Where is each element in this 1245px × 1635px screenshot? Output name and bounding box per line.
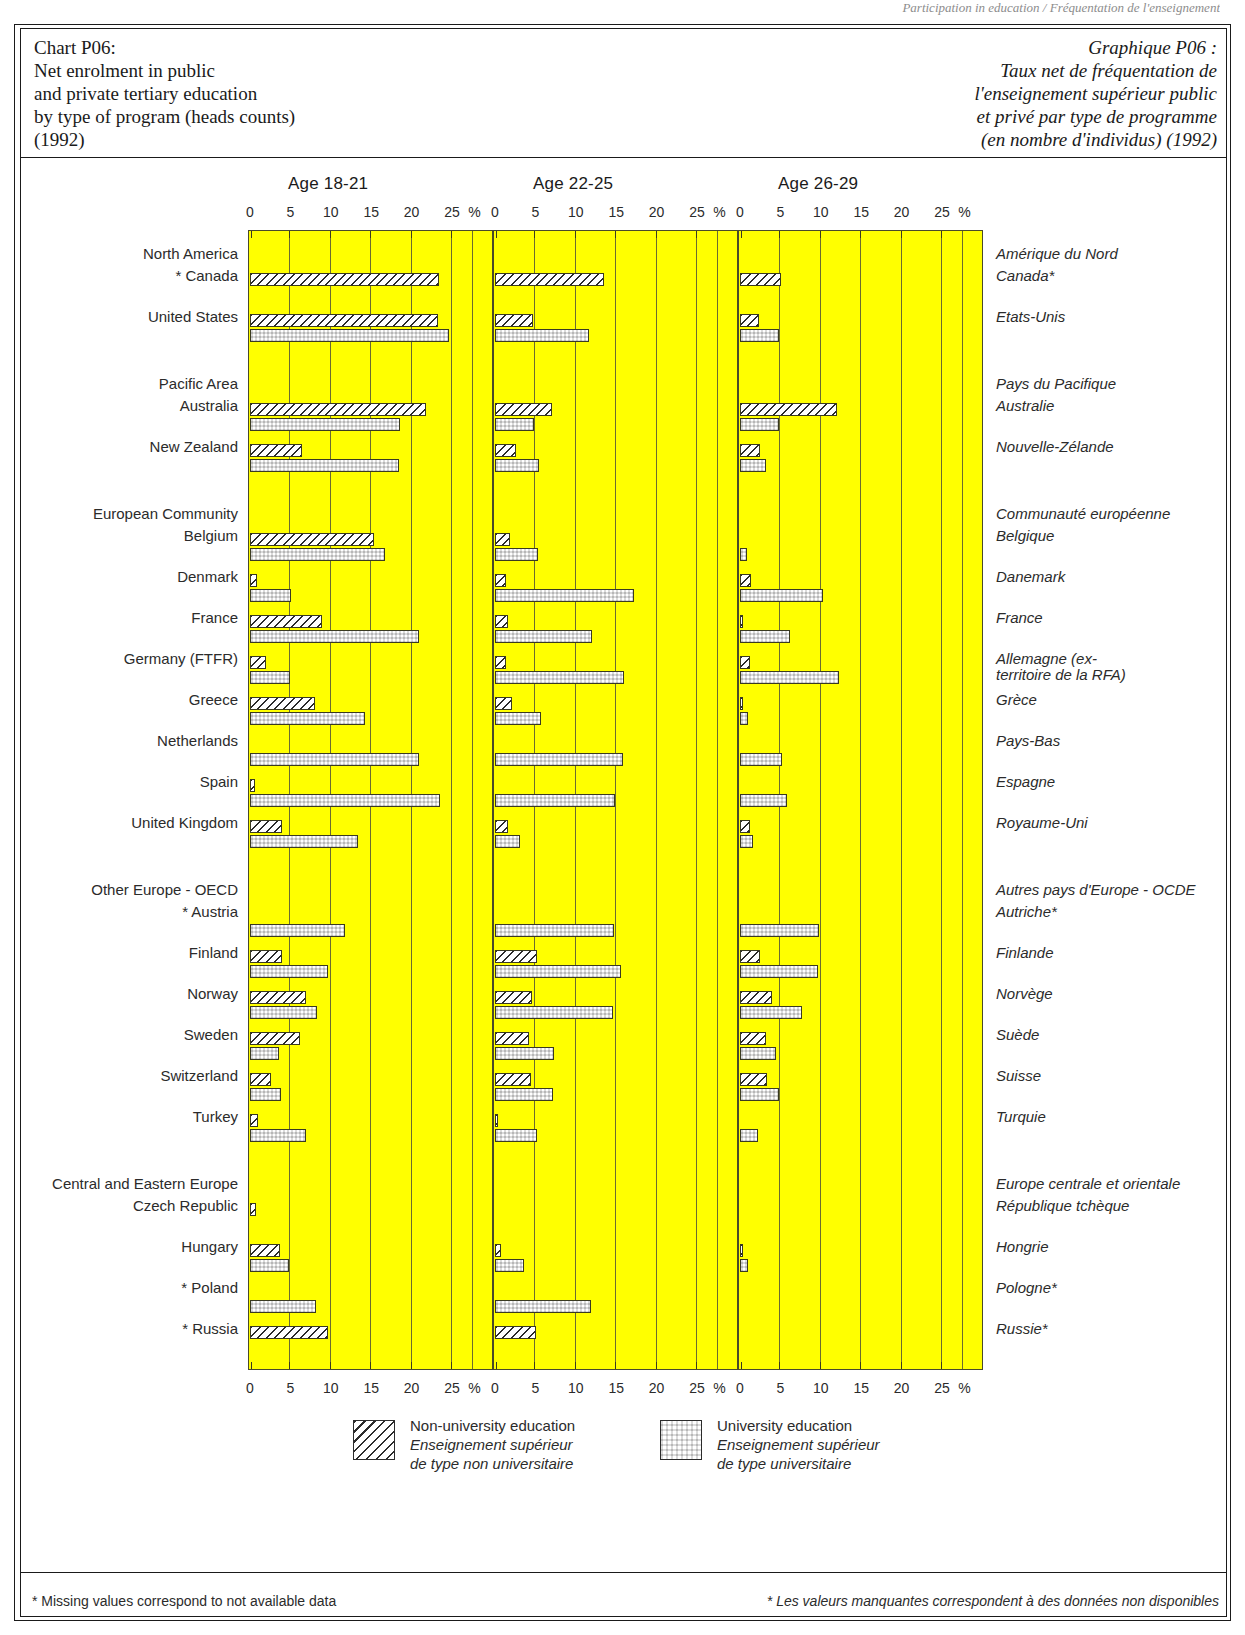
row-label-left: Sweden — [20, 1027, 238, 1043]
axis-tick-mark — [534, 231, 535, 238]
axis-tick-mark — [496, 1362, 497, 1369]
bar-nonuni — [495, 273, 604, 286]
chart-panel-age-26-29 — [738, 230, 983, 1370]
bar-uni — [740, 418, 779, 431]
group-label-right: Autres pays d'Europe - OCDE — [996, 882, 1226, 898]
gridline — [717, 231, 718, 1369]
axis-tick-label: 20 — [894, 204, 910, 220]
footer-divider — [20, 1572, 1227, 1573]
group-label-left: North America — [20, 246, 238, 262]
bar-uni — [495, 459, 539, 472]
bar-nonuni — [495, 991, 532, 1004]
axis-tick-label: 10 — [813, 1380, 829, 1396]
axis-tick-mark — [901, 1362, 902, 1369]
row-label-right: Suisse — [996, 1068, 1226, 1084]
axis-tick-label: 0 — [491, 1380, 499, 1396]
bar-nonuni — [250, 533, 374, 546]
row-label-left: United Kingdom — [20, 815, 238, 831]
row-label-left: Netherlands — [20, 733, 238, 749]
bar-uni — [495, 1129, 537, 1142]
row-label-right: Canada* — [996, 268, 1226, 284]
axis-tick-label: 10 — [323, 204, 339, 220]
bar-uni — [495, 630, 592, 643]
axis-tick-label: 25 — [934, 204, 950, 220]
axis-tick-mark — [370, 231, 371, 238]
row-label-right: Pologne* — [996, 1280, 1226, 1296]
axis-tick-label: 25 — [444, 204, 460, 220]
legend-entry-nonuniversity: Non-university educationEnseignement sup… — [410, 1416, 575, 1473]
axis-tick-mark — [330, 1362, 331, 1369]
axis-tick-mark — [370, 1362, 371, 1369]
row-label-left: Czech Republic — [20, 1198, 238, 1214]
title-block: Chart P06: Net enrolment in public and p… — [24, 32, 1223, 157]
axis-tick-mark — [820, 1362, 821, 1369]
group-label-left: Other Europe - OECD — [20, 882, 238, 898]
axis-tick-label: 15 — [853, 1380, 869, 1396]
bar-uni — [495, 1088, 553, 1101]
bar-nonuni — [250, 950, 282, 963]
axis-tick-label: 0 — [736, 204, 744, 220]
axis-tick-mark — [411, 231, 412, 238]
axis-tick-label: 5 — [776, 204, 784, 220]
gridline — [962, 231, 963, 1369]
bar-nonuni — [740, 273, 781, 286]
row-label-right: Etats-Unis — [996, 309, 1226, 325]
row-label-left: Australia — [20, 398, 238, 414]
axis-tick-label: 25 — [934, 1380, 950, 1396]
bar-nonuni — [250, 314, 438, 327]
bar-nonuni — [495, 574, 506, 587]
bar-uni — [250, 753, 419, 766]
chart-panel-age-18-21 — [248, 230, 493, 1370]
row-label-left: Greece — [20, 692, 238, 708]
bar-nonuni — [740, 1073, 767, 1086]
bar-uni — [250, 630, 419, 643]
axis-tick-mark — [615, 1362, 616, 1369]
bar-nonuni — [495, 314, 533, 327]
bar-uni — [495, 329, 589, 342]
axis-tick-label: 15 — [608, 204, 624, 220]
bar-uni — [250, 924, 345, 937]
gridline — [860, 231, 861, 1369]
bar-uni — [740, 835, 753, 848]
bar-nonuni — [250, 991, 306, 1004]
axis-tick-mark — [696, 1362, 697, 1369]
bar-nonuni — [250, 1326, 328, 1339]
gridline — [451, 231, 452, 1369]
row-label-right: France — [996, 610, 1226, 626]
hatch-swatch-icon — [353, 1420, 395, 1460]
bar-uni — [740, 965, 818, 978]
gridline — [941, 231, 942, 1369]
axis-tick-label: 10 — [568, 204, 584, 220]
bar-nonuni — [250, 444, 302, 457]
axis-tick-mark — [451, 231, 452, 238]
axis-tick-labels-age-18-21-bottom: 0510152025% — [248, 1380, 493, 1398]
bar-nonuni — [495, 1244, 501, 1257]
row-label-right: Royaume-Uni — [996, 815, 1226, 831]
axis-tick-label: 20 — [649, 1380, 665, 1396]
bar-uni — [250, 794, 440, 807]
bar-nonuni — [495, 1073, 531, 1086]
bar-nonuni — [740, 1032, 766, 1045]
bar-uni — [740, 589, 823, 602]
axis-tick-label: 10 — [323, 1380, 339, 1396]
axis-tick-mark — [741, 231, 742, 238]
row-label-right: République tchèque — [996, 1198, 1226, 1214]
bar-uni — [740, 924, 819, 937]
bar-uni — [740, 1088, 779, 1101]
row-label-left: Finland — [20, 945, 238, 961]
axis-tick-mark — [696, 231, 697, 238]
axis-tick-mark — [779, 1362, 780, 1369]
bar-uni — [740, 329, 779, 342]
bar-nonuni — [740, 1244, 743, 1257]
axis-tick-label: 15 — [853, 204, 869, 220]
axis-tick-label: 25 — [689, 204, 705, 220]
bar-uni — [740, 671, 839, 684]
chart-plot-area: Age 18-210510152025%0510152025%Age 22-25… — [20, 158, 1227, 1617]
bar-nonuni — [250, 1114, 258, 1127]
row-label-right: Autriche* — [996, 904, 1226, 920]
bar-nonuni — [250, 697, 315, 710]
footnote-fr: * Les valeurs manquantes correspondent à… — [767, 1593, 1219, 1609]
bar-uni — [250, 712, 365, 725]
bar-uni — [250, 1088, 281, 1101]
bar-nonuni — [250, 273, 439, 286]
